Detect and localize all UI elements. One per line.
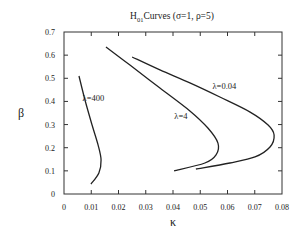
- y-tick-label: 0.6: [45, 51, 55, 60]
- y-tick-label: 0.2: [45, 144, 55, 153]
- x-axis: 00.010.020.030.040.050.060.070.08: [62, 32, 289, 212]
- series-line-lambda-0_04: [132, 57, 274, 169]
- chart: H01Curves (σ=1, ρ=5) 00.010.020.030.040.…: [0, 0, 306, 236]
- x-tick-label: 0.08: [275, 203, 289, 212]
- plot-frame: [64, 32, 282, 194]
- x-tick-label: 0.05: [193, 203, 207, 212]
- chart-title: H01Curves (σ=1, ρ=5): [130, 11, 214, 23]
- x-tick-label: 0.04: [166, 203, 180, 212]
- chart-title-rest: Curves (σ=1, ρ=5): [143, 11, 213, 22]
- y-tick-label: 0: [51, 190, 55, 199]
- y-tick-label: 0.5: [45, 74, 55, 83]
- series-line-lambda-4: [106, 47, 219, 171]
- x-tick-label: 0: [62, 203, 66, 212]
- x-tick-label: 0.06: [221, 203, 235, 212]
- series-label-lambda-400: λ=400: [83, 93, 105, 103]
- series-label-lambda-0_04: λ=0.04: [213, 81, 238, 91]
- y-axis-label: β: [18, 106, 24, 120]
- x-tick-label: 0.02: [112, 203, 126, 212]
- x-tick-label: 0.01: [84, 203, 98, 212]
- x-axis-label: κ: [170, 215, 176, 229]
- series-label-lambda-4: λ=4: [174, 111, 188, 121]
- x-tick-label: 0.07: [248, 203, 262, 212]
- y-tick-label: 0.1: [45, 167, 55, 176]
- y-axis: 00.10.20.30.40.50.60.7: [45, 28, 282, 199]
- y-tick-label: 0.7: [45, 28, 55, 37]
- series-group: λ=400λ=4λ=0.04: [79, 47, 274, 184]
- x-tick-label: 0.03: [139, 203, 153, 212]
- y-tick-label: 0.3: [45, 121, 55, 130]
- series-line-lambda-400: [79, 76, 101, 184]
- y-tick-label: 0.4: [45, 97, 55, 106]
